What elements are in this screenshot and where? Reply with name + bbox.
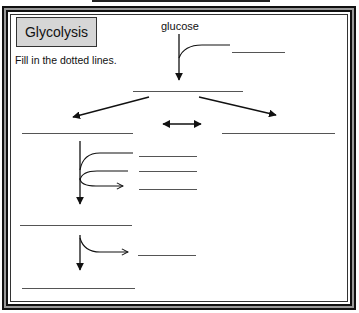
branch-curve-1b-icon <box>80 171 128 180</box>
blank-right-split-product[interactable] <box>222 133 335 134</box>
blank-branch-1b[interactable] <box>139 171 197 172</box>
blank-branch-1c[interactable] <box>139 189 197 190</box>
blank-final-product[interactable] <box>22 288 135 289</box>
branch-curve-1a-icon <box>80 153 133 170</box>
blank-branch-1a[interactable] <box>139 156 197 157</box>
branch-arrow-2-icon <box>80 238 128 252</box>
blank-glucose-branch-product[interactable] <box>232 52 285 53</box>
branch-hook-arrow-1c-icon <box>80 178 123 186</box>
blank-branch-2[interactable] <box>138 255 196 256</box>
blank-middle-product[interactable] <box>20 225 132 226</box>
blank-after-glucose[interactable] <box>133 91 243 92</box>
left-split-arrow-icon <box>73 97 149 117</box>
blank-left-split-product[interactable] <box>22 133 133 134</box>
right-split-arrow-icon <box>199 97 276 115</box>
glucose-branch-curve-icon <box>179 45 230 58</box>
